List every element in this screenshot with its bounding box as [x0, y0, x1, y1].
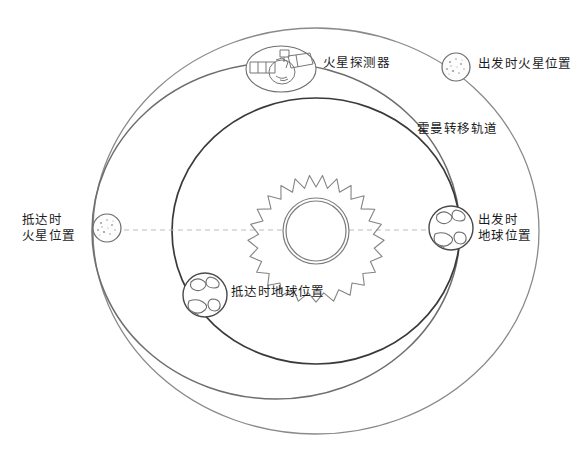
- label-mars-at-departure: 出发时火星位置: [478, 56, 572, 72]
- label-earth-at-arrival: 抵达时地球位置: [231, 284, 325, 300]
- mars-at-departure-disc: [442, 53, 470, 81]
- mars-at-departure-body: [442, 53, 470, 81]
- mars-at-arrival-body: [93, 214, 121, 242]
- diagram-canvas: 火星探测器 出发时火星位置 霍曼转移轨道 出发时 地球位置 抵达时 火星位置 抵…: [0, 0, 587, 457]
- label-hohmann-transfer-orbit: 霍曼转移轨道: [417, 121, 497, 137]
- label-earth-at-departure: 出发时 地球位置: [478, 212, 532, 244]
- earth-at-departure-body: [429, 206, 473, 250]
- earth-at-arrival-body: [183, 273, 227, 317]
- label-mars-probe: 火星探测器: [323, 55, 390, 71]
- label-mars-at-arrival: 抵达时 火星位置: [22, 212, 76, 244]
- hohmann-transfer-orbit-path: [92, 63, 460, 399]
- mars-probe-body: [246, 46, 316, 92]
- mars-probe-bubble: [246, 46, 316, 92]
- mars-at-arrival-disc: [93, 214, 121, 242]
- sun-disc-inner: [286, 201, 346, 261]
